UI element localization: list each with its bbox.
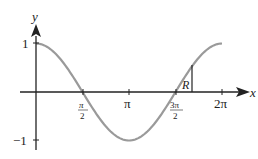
y-axis-arrow-icon [31, 24, 41, 37]
x-axis-label: x [249, 85, 256, 100]
x-tick-label-pi: π [124, 96, 131, 111]
y-tick-label-neg1: −1 [13, 133, 27, 148]
x-tick-label-2pi: 2π [214, 96, 228, 111]
y-axis-label: y [30, 9, 38, 24]
x-tick-label-3pi-half-num: 3π [170, 100, 180, 110]
graph-canvas: y x 1 −1 π 2 π 3π 2 2π R [0, 0, 258, 159]
x-tick-label-pi-half-den: 2 [80, 111, 85, 121]
x-tick-label-pi-half-num: π [79, 100, 84, 110]
x-tick-label-3pi-half-den: 2 [173, 111, 178, 121]
cosine-graph-figure: y x 1 −1 π 2 π 3π 2 2π R [0, 0, 258, 159]
y-tick-label-1: 1 [22, 36, 29, 51]
region-label-r: R [181, 78, 190, 92]
